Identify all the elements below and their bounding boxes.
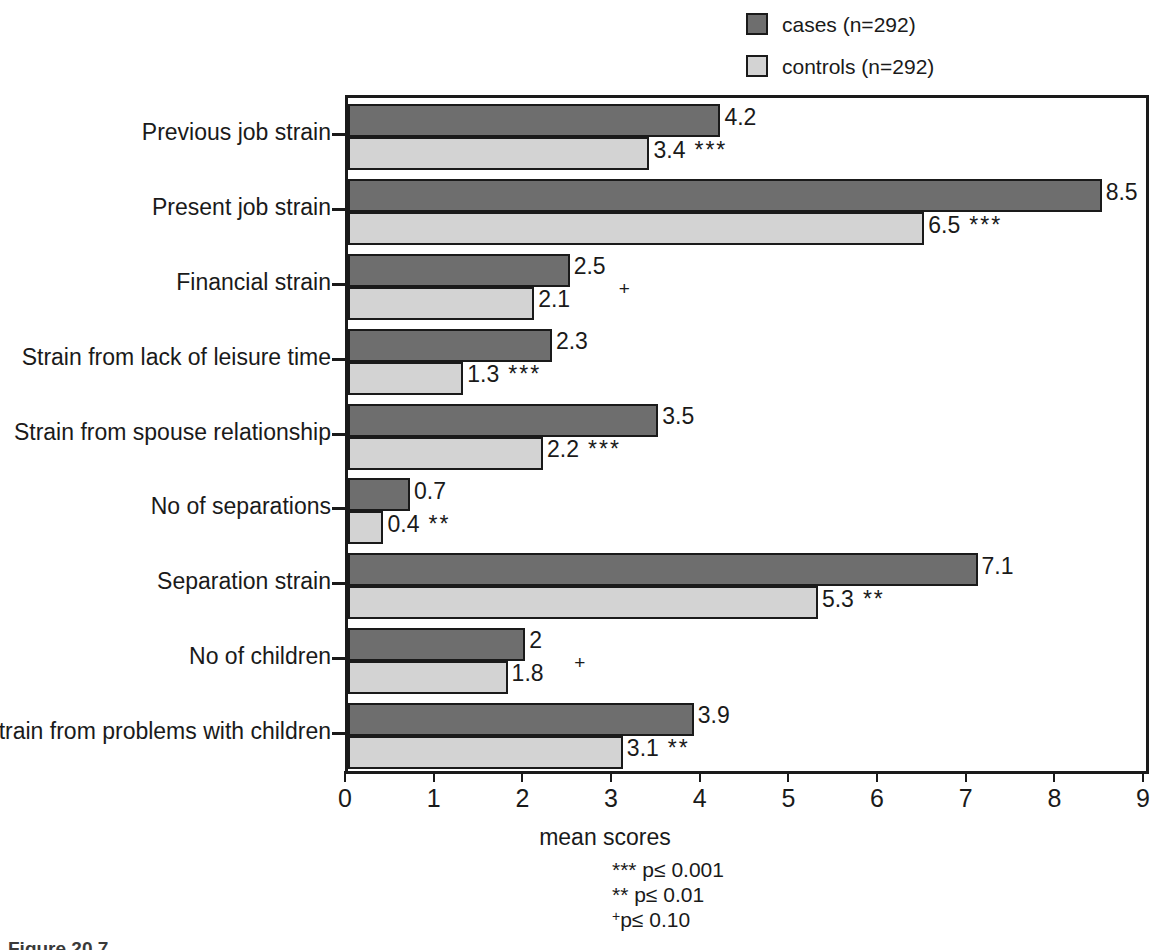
bar-cases	[348, 104, 720, 137]
y-axis-category-label: No of children	[189, 645, 331, 668]
y-axis-category-label: Previous job strain	[142, 121, 331, 144]
x-axis-tick-label: 9	[1136, 786, 1150, 811]
x-axis-tick-label: 8	[1047, 786, 1061, 811]
legend-item-cases: cases (n=292)	[746, 8, 1086, 40]
bar-value-cases: 2.3	[556, 330, 588, 353]
bar-value-controls: 3.1**	[627, 737, 690, 760]
bar-value-cases: 2	[529, 629, 542, 652]
y-axis-tick-mark	[332, 732, 345, 735]
footnote-plus-symbol: +	[612, 908, 620, 924]
x-axis-tick-mark	[876, 771, 878, 782]
x-axis-tick-label: 3	[604, 786, 618, 811]
significance-marker-superscript: +	[619, 279, 632, 298]
bar-cases	[348, 179, 1102, 212]
bar-value-controls: 2.2***	[547, 438, 621, 461]
x-axis-tick-label: 6	[870, 786, 884, 811]
significance-marker: ***	[508, 361, 541, 387]
bar-cases	[348, 329, 552, 362]
bar-cases	[348, 478, 410, 511]
x-axis-tick-mark	[433, 771, 435, 782]
y-axis-category-label: Separation strain	[157, 570, 331, 593]
bar-controls	[348, 287, 534, 320]
significance-marker: **	[428, 511, 450, 537]
bar-controls	[348, 137, 649, 170]
x-axis-title: mean scores	[0, 824, 1166, 851]
x-axis-tick-label: 5	[781, 786, 795, 811]
bar-value-cases: 8.5	[1106, 181, 1138, 204]
footnote-plus-text: p≤ 0.10	[620, 908, 690, 931]
bar-controls	[348, 586, 818, 619]
bar-value-cases: 4.2	[724, 106, 756, 129]
x-axis-tick-label: 0	[338, 786, 352, 811]
y-axis-tick-mark	[332, 657, 345, 660]
significance-footnotes: *** p≤ 0.001 ** p≤ 0.01 +p≤ 0.10	[612, 858, 724, 932]
significance-marker: ***	[969, 212, 1002, 238]
x-axis-tick-mark	[521, 771, 523, 782]
bar-value-controls: 5.3**	[822, 588, 885, 611]
legend-label-cases: cases (n=292)	[782, 14, 916, 35]
chart-legend: cases (n=292) controls (n=292)	[746, 8, 1086, 92]
legend-swatch-cases-icon	[746, 13, 768, 35]
y-axis-category-label: Strain from spouse relationship	[14, 421, 331, 444]
bar-cases	[348, 553, 978, 586]
x-axis-tick-label: 4	[693, 786, 707, 811]
x-axis-tick-mark	[965, 771, 967, 782]
significance-marker: ***	[694, 137, 727, 163]
y-axis-category-label: Financial strain	[176, 271, 331, 294]
bar-controls	[348, 736, 623, 769]
y-axis-tick-mark	[332, 507, 345, 510]
significance-marker-superscript: +	[574, 653, 587, 672]
x-axis-tick-mark	[787, 771, 789, 782]
significance-marker: **	[863, 586, 885, 612]
bar-cases	[348, 254, 570, 287]
y-axis-tick-mark	[332, 133, 345, 136]
bar-value-cases: 2.5	[574, 255, 606, 278]
bar-cases	[348, 404, 658, 437]
y-axis-tick-mark	[332, 208, 345, 211]
x-axis-tick-mark	[344, 771, 346, 782]
y-axis-category-label: No of separations	[151, 495, 331, 518]
bar-value-cases: 7.1	[982, 555, 1014, 578]
plot-frame	[345, 95, 1149, 774]
bar-value-cases: 3.5	[662, 405, 694, 428]
x-axis-tick-mark	[1053, 771, 1055, 782]
x-axis-tick-mark	[610, 771, 612, 782]
footnote-plus: +p≤ 0.10	[612, 908, 724, 933]
bar-value-controls: 1.8	[512, 662, 544, 685]
y-axis-tick-mark	[332, 283, 345, 286]
bar-controls	[348, 661, 508, 694]
bar-controls	[348, 362, 463, 395]
bar-value-controls: 3.4***	[653, 139, 727, 162]
bar-value-cases: 3.9	[698, 704, 730, 727]
bar-controls	[348, 511, 383, 544]
legend-swatch-controls-icon	[746, 55, 768, 77]
bar-controls	[348, 212, 924, 245]
bar-value-cases: 0.7	[414, 480, 446, 503]
bar-value-controls: 1.3***	[467, 363, 541, 386]
x-axis-tick-label: 2	[515, 786, 529, 811]
footnote-three-star: *** p≤ 0.001	[612, 858, 724, 883]
x-axis-tick-label: 7	[959, 786, 973, 811]
bar-controls	[348, 437, 543, 470]
x-axis-tick-mark	[1142, 771, 1144, 782]
x-axis-title-text: mean scores	[539, 824, 671, 851]
bar-value-controls: 6.5***	[928, 214, 1002, 237]
significance-marker: ***	[588, 436, 621, 462]
y-axis-tick-mark	[332, 582, 345, 585]
y-axis-category-label: Strain from problems with children	[0, 720, 331, 743]
x-axis-tick-mark	[699, 771, 701, 782]
figure-caption: Figure 20.7	[8, 938, 368, 950]
legend-item-controls: controls (n=292)	[746, 50, 1086, 82]
footnote-two-star: ** p≤ 0.01	[612, 883, 724, 908]
bar-cases	[348, 628, 525, 661]
y-axis-tick-mark	[332, 433, 345, 436]
x-axis-tick-label: 1	[427, 786, 441, 811]
plot-area	[348, 98, 1146, 771]
bar-cases	[348, 703, 694, 736]
bar-value-controls: 2.1	[538, 288, 570, 311]
legend-label-controls: controls (n=292)	[782, 56, 934, 77]
y-axis-tick-mark	[332, 358, 345, 361]
y-axis-category-label: Present job strain	[152, 196, 331, 219]
bar-value-controls: 0.4**	[387, 513, 450, 536]
y-axis-category-label: Strain from lack of leisure time	[22, 346, 331, 369]
